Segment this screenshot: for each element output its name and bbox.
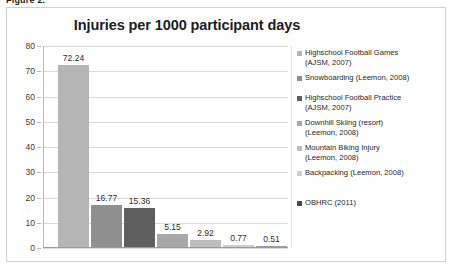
legend-item-label: Snowboarding (Leemon, 2008) — [305, 73, 409, 83]
bar-value-label: 15.36 — [129, 196, 150, 206]
legend-swatch-icon — [297, 51, 302, 56]
y-axis-tick-mark — [37, 172, 41, 173]
y-axis-tick-label: 40 — [26, 142, 35, 152]
bar-value-label: 72.24 — [63, 53, 84, 63]
legend-swatch-icon — [297, 121, 302, 126]
bar-value-label: 5.15 — [164, 222, 181, 232]
gridline — [43, 248, 288, 249]
legend-swatch-icon — [297, 201, 302, 206]
legend-item[interactable]: Highschool Football Games (AJSM, 2007) — [297, 48, 449, 67]
y-axis-tick-mark — [37, 198, 41, 199]
legend-item-label: Backpacking (Leemon, 2008) — [305, 168, 404, 178]
y-axis-tick-label: 70 — [26, 66, 35, 76]
y-axis-tick-mark — [37, 46, 41, 47]
y-axis-tick-label: 0 — [30, 243, 35, 253]
legend-swatch-icon — [297, 146, 302, 151]
legend-swatch-icon — [297, 96, 302, 101]
bar: 16.77 — [91, 205, 121, 247]
y-axis-tick-mark — [37, 248, 41, 249]
y-axis-tick-mark — [37, 71, 41, 72]
bar-value-label: 2.92 — [197, 228, 214, 238]
legend-item[interactable]: Backpacking (Leemon, 2008) — [297, 168, 449, 178]
legend-item-label: OBHRC (2011) — [305, 198, 356, 208]
legend-item-label: Highschool Football Games (AJSM, 2007) — [305, 48, 398, 67]
legend-item[interactable]: Highschool Football Practice (AJSM, 2007… — [297, 93, 449, 112]
bar: 72.24 — [58, 65, 88, 247]
chart-title: Injuries per 1000 participant days — [37, 17, 337, 33]
legend-item[interactable]: Downhill Skiing (resort) (Leemon, 2008) — [297, 118, 449, 137]
y-axis-tick-label: 10 — [26, 218, 35, 228]
legend-item[interactable]: Mountain Biking Injury (Leemon, 2008) — [297, 143, 449, 162]
bar: 2.92 — [190, 240, 220, 247]
y-axis-tick-label: 60 — [26, 92, 35, 102]
y-axis-tick-mark — [37, 147, 41, 148]
legend-divider — [291, 46, 292, 248]
y-axis-tick-mark — [37, 223, 41, 224]
bar-value-label: 0.77 — [230, 233, 247, 243]
y-axis-tick-mark — [37, 122, 41, 123]
y-axis-tick-label: 50 — [26, 117, 35, 127]
y-axis-tick-label: 30 — [26, 167, 35, 177]
y-axis-tick-label: 20 — [26, 193, 35, 203]
y-axis-tick-mark — [37, 97, 41, 98]
plot-area: 72.2416.7715.365.152.920.770.51 — [43, 46, 288, 248]
legend-swatch-icon — [297, 76, 302, 81]
bar-value-label: 0.51 — [263, 234, 280, 244]
legend-swatch-icon — [297, 171, 302, 176]
legend-item[interactable]: Snowboarding (Leemon, 2008) — [297, 73, 449, 83]
bar: 15.36 — [124, 208, 154, 247]
legend-item-label: Highschool Football Practice (AJSM, 2007… — [305, 93, 401, 112]
y-axis: 01020304050607080 — [7, 46, 41, 248]
legend-item-label: Downhill Skiing (resort) (Leemon, 2008) — [305, 118, 383, 137]
legend-item[interactable]: OBHRC (2011) — [297, 198, 449, 208]
bar-series: 72.2416.7715.365.152.920.770.51 — [43, 46, 288, 248]
bar-value-label: 16.77 — [96, 193, 117, 203]
y-axis-tick-label: 80 — [26, 41, 35, 51]
figure-caption: Figure 2. — [6, 0, 45, 5]
chart-container: Injuries per 1000 participant days 01020… — [6, 7, 446, 262]
bar: 5.15 — [157, 234, 187, 247]
chart-legend: Highschool Football Games (AJSM, 2007)Sn… — [297, 48, 447, 248]
x-axis-line — [43, 247, 288, 248]
legend-item-label: Mountain Biking Injury (Leemon, 2008) — [305, 143, 380, 162]
